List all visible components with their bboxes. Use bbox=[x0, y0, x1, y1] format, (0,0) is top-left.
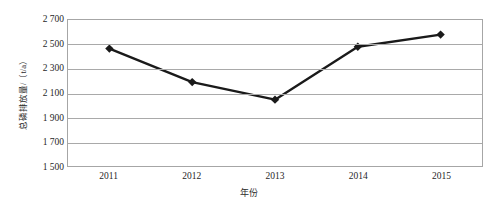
y-axis-tick-label: 2 700 bbox=[28, 14, 64, 24]
x-axis-tick-label: 2011 bbox=[99, 170, 118, 182]
y-axis-tick-label: 2 100 bbox=[28, 88, 64, 98]
y-axis-tick-label: 2 500 bbox=[28, 39, 64, 49]
gridline bbox=[68, 44, 482, 45]
y-axis-tick-labels: 2 7002 5002 3002 1001 9001 7001 500 bbox=[28, 19, 64, 167]
data-point-marker bbox=[188, 78, 196, 86]
x-axis-tick-labels: 20112012201320142015 bbox=[67, 170, 483, 184]
x-axis-tick-label: 2012 bbox=[182, 170, 201, 182]
y-axis-title-text: 总磷排放量/（t/a） bbox=[16, 56, 28, 130]
data-point-marker bbox=[105, 44, 113, 52]
gridline bbox=[68, 69, 482, 70]
y-axis-tick-label: 1 500 bbox=[28, 162, 64, 172]
gridline bbox=[68, 94, 482, 95]
line-chart: 总磷排放量/（t/a） 2 7002 5002 3002 1001 9001 7… bbox=[0, 0, 498, 214]
y-axis-tick-label: 1 900 bbox=[28, 113, 64, 123]
x-axis-tick-label: 2015 bbox=[432, 170, 451, 182]
y-axis-tick-label: 1 700 bbox=[28, 137, 64, 147]
x-axis-title: 年份 bbox=[0, 186, 498, 199]
y-axis-tick-label: 2 300 bbox=[28, 63, 64, 73]
x-axis-tick-label: 2013 bbox=[266, 170, 285, 182]
gridline bbox=[68, 143, 482, 144]
x-axis-tick-label: 2014 bbox=[349, 170, 368, 182]
data-point-marker bbox=[436, 30, 444, 38]
plot-area bbox=[67, 19, 483, 167]
gridline bbox=[68, 118, 482, 119]
